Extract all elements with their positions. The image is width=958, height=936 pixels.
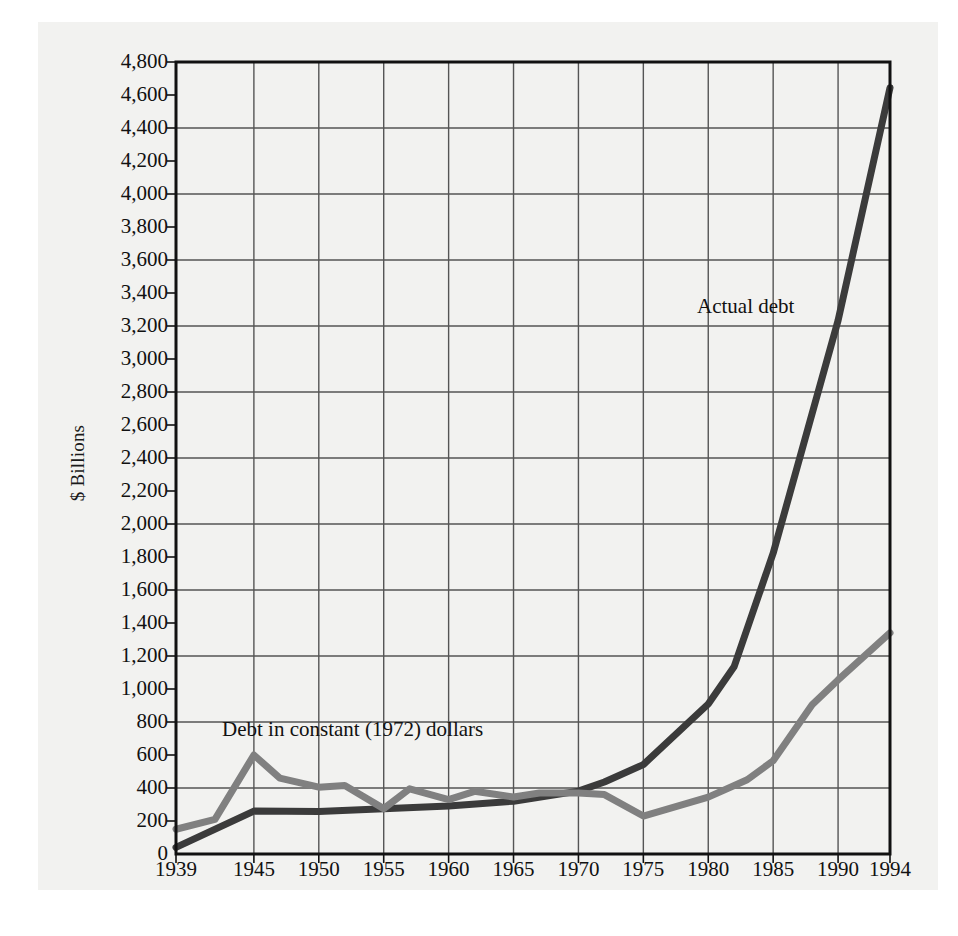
y-tick-label: 1,200 [60,645,168,666]
y-tick-label: 1,000 [60,678,168,699]
y-tick-label: 3,600 [60,249,168,270]
x-tick-label: 1975 [622,857,664,881]
y-tick-label: 2,400 [60,447,168,468]
y-tick-label: 1,400 [60,612,168,633]
debt-line-chart: $ Billions 02004006008001,0001,2001,4001… [0,0,958,936]
y-tick-label: 3,200 [60,315,168,336]
y-tick-label: 3,000 [60,348,168,369]
series-label-constant-dollars: Debt in constant (1972) dollars [222,718,483,740]
y-tick-label: 4,400 [60,117,168,138]
x-tick-label: 1985 [752,857,794,881]
x-tick-label: 1980 [687,857,729,881]
x-tick-label: 1990 [817,857,859,881]
x-tick-label: 1939 [155,857,197,881]
x-tick-label: 1994 [869,857,911,881]
x-tick-label: 1955 [363,857,405,881]
y-tick-label: 600 [60,744,168,765]
y-axis-tick-labels: 02004006008001,0001,2001,4001,6001,8002,… [48,0,168,936]
y-tick-label: 4,600 [60,84,168,105]
y-tick-label: 4,800 [60,51,168,72]
x-tick-label: 1945 [233,857,275,881]
y-tick-label: 400 [60,777,168,798]
y-tick-label: 3,800 [60,216,168,237]
y-tick-label: 4,200 [60,150,168,171]
y-tick-label: 1,600 [60,579,168,600]
y-tick-label: 4,000 [60,183,168,204]
y-tick-label: 3,400 [60,282,168,303]
page-background: $ Billions 02004006008001,0001,2001,4001… [0,0,958,936]
y-tick-label: 200 [60,810,168,831]
x-axis-tick-labels: 1939194519501955196019651970197519801985… [0,857,958,891]
x-tick-label: 1960 [428,857,470,881]
y-tick-label: 2,000 [60,513,168,534]
x-tick-label: 1965 [493,857,535,881]
x-tick-label: 1970 [557,857,599,881]
y-tick-label: 2,800 [60,381,168,402]
y-tick-label: 2,200 [60,480,168,501]
y-tick-label: 2,600 [60,414,168,435]
series-label-actual-debt: Actual debt [697,295,794,317]
x-tick-label: 1950 [298,857,340,881]
y-tick-label: 800 [60,711,168,732]
y-tick-label: 1,800 [60,546,168,567]
